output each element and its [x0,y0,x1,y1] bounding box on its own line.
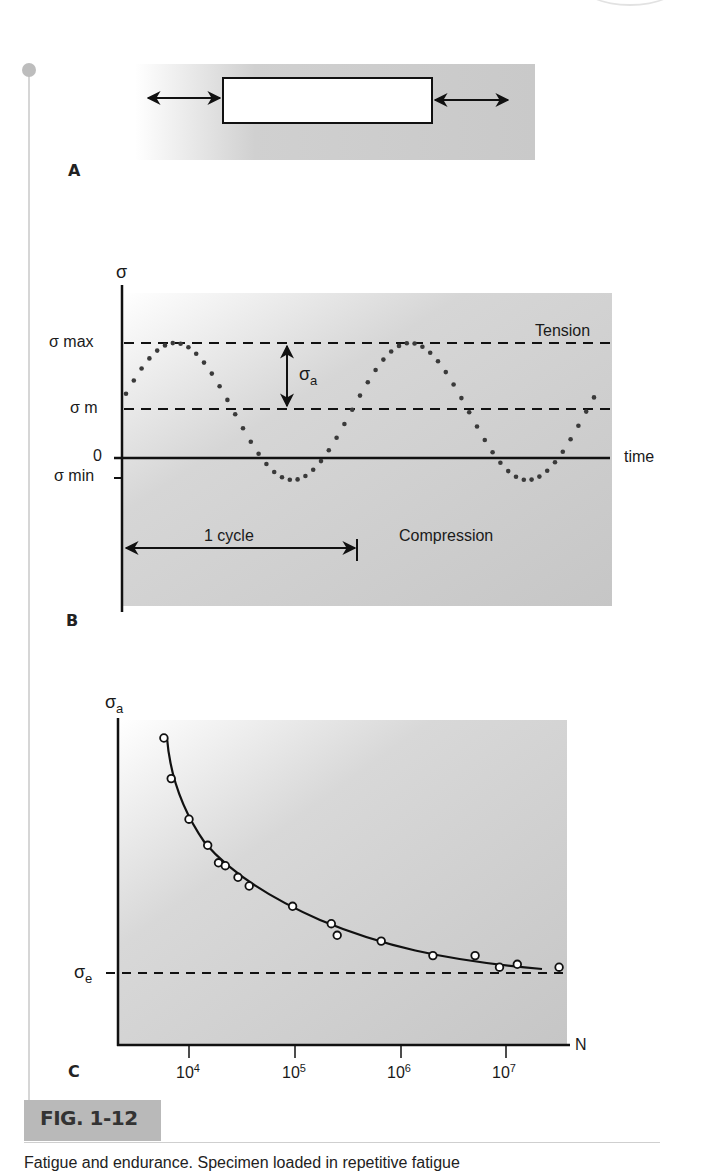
sn-data-point [496,963,504,971]
tension-label: Tension [535,322,590,340]
tick-base: 10 [492,1064,510,1081]
endurance-subscript: e [85,971,92,986]
panel-a-label: A [68,161,80,180]
y-axis-subscript: a [116,701,123,716]
tick-exp: 6 [405,1062,411,1074]
tick-1e6: 106 [387,1062,411,1082]
sn-data-point [222,862,230,870]
panel-c-label: C [68,1062,80,1081]
amplitude-label: σa [299,364,317,388]
tick-exp: 4 [194,1062,200,1074]
sigma-max-label: σ max [49,333,94,351]
y-axis-symbol: σ [105,692,116,712]
sn-data-point [185,815,193,823]
panel-b-y-axis-label: σ [116,262,127,283]
sn-data-point [514,961,522,969]
sn-data-point [471,952,479,960]
sn-data-point [245,882,253,890]
panel-c-y-axis-label: σa [105,692,123,716]
sn-data-point [234,874,242,882]
compression-label: Compression [399,527,493,545]
cycle-label: 1 cycle [204,527,254,545]
amplitude-symbol: σ [299,364,310,384]
sn-data-point [377,937,385,945]
tick-1e5: 105 [282,1062,306,1082]
sn-data-point [160,734,168,742]
endurance-symbol: σ [74,962,85,982]
sn-data-point [333,932,341,940]
tick-exp: 7 [510,1062,516,1074]
panel-b-label: B [66,611,78,630]
sn-data-point [555,963,563,971]
panel-c [106,718,570,1058]
sn-data-point [204,842,212,850]
tick-base: 10 [387,1064,405,1081]
tick-exp: 5 [300,1062,306,1074]
sigma-m-label: σ m [70,399,98,417]
amplitude-subscript: a [310,373,317,388]
figure-caption: Fatigue and endurance. Specimen loaded i… [24,1154,460,1172]
sigma-min-label: σ min [54,467,94,485]
figure-rule [24,1142,660,1143]
time-axis-label: time [624,448,654,466]
figure-label: FIG. 1-12 [40,1106,138,1130]
tick-1e7: 107 [492,1062,516,1082]
tick-base: 10 [176,1064,194,1081]
sn-data-point [429,952,437,960]
sn-data-point [289,903,297,911]
x-axis-label: N [575,1036,587,1054]
panel-a [135,64,535,160]
zero-label: 0 [93,447,102,465]
endurance-limit-label: σe [74,962,92,986]
tick-base: 10 [282,1064,300,1081]
sn-data-point [328,920,336,928]
tick-1e4: 104 [176,1062,200,1082]
sn-data-point [167,775,175,783]
